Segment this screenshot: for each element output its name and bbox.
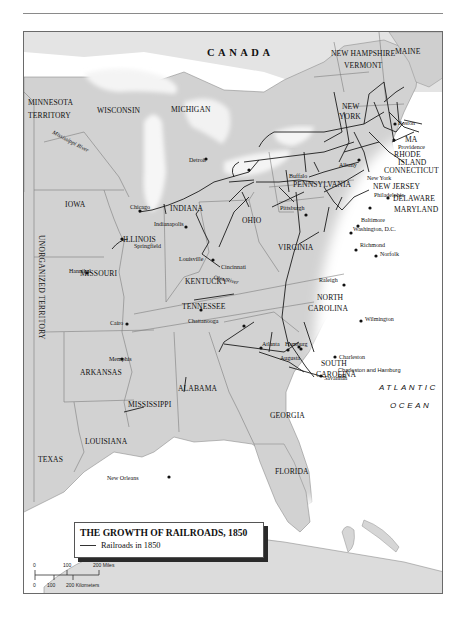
label-louisiana: LOUISIANA	[85, 438, 127, 446]
label-raleigh: Raleigh	[319, 277, 338, 283]
scale-miles-200: 200 Miles	[93, 562, 114, 568]
label-vermont: VERMONT	[344, 62, 382, 70]
label-minnesota: MINNESOTA	[28, 99, 73, 107]
label-north-carolina-2: CAROLINA	[308, 305, 348, 313]
label-alabama: ALABAMA	[178, 385, 217, 393]
label-memphis: Memphis	[109, 356, 132, 362]
legend-item-railroads: Railroads in 1850	[80, 541, 258, 550]
label-territory: TERRITORY	[28, 112, 71, 120]
scale-miles-0: 0	[33, 562, 36, 568]
label-mississippi: MISSISSIPPI	[128, 401, 171, 409]
label-texas: TEXAS	[38, 456, 63, 464]
label-cairo: Cairo	[110, 320, 123, 326]
label-georgia: GEORGIA	[270, 412, 305, 420]
label-baltimore: Baltimore	[361, 217, 385, 223]
label-unorganized-territory: UNORGANIZED TERRITORY	[38, 235, 45, 340]
label-ohio: OHIO	[242, 217, 261, 225]
label-providence: Providence	[398, 144, 425, 150]
label-new-york: New York	[367, 175, 391, 181]
label-detroit: Detroit	[189, 157, 206, 163]
label-maryland: MARYLAND	[394, 206, 438, 214]
label-hamburg: Hamburg	[285, 341, 308, 347]
label-chattanooga: Chattanooga	[188, 318, 218, 324]
label-philadelphia: Philadelphia	[374, 192, 404, 198]
railroad-map: CANADA ATLANTIC OCEAN MINNESOTA TERRITOR…	[23, 31, 443, 594]
label-pennsylvania: PENNSYLVANIA	[293, 181, 351, 189]
label-boston: Boston	[398, 120, 415, 126]
label-albany: Albany	[339, 162, 357, 168]
label-louisville: Louisville	[179, 256, 203, 262]
label-atlantic: ATLANTIC	[379, 384, 438, 392]
label-maine: MAINE	[395, 48, 420, 56]
scale-miles-100: 100	[63, 562, 71, 568]
label-new-orleans: New Orleans	[107, 475, 139, 481]
label-springfield: Springfield	[134, 243, 161, 249]
label-chicago: Chicago	[130, 204, 150, 210]
label-norfolk: Norfolk	[380, 251, 399, 257]
label-indianapolis: Indianapolis	[154, 221, 184, 227]
label-iowa: IOWA	[65, 201, 85, 209]
label-wilmington: Wilmington	[365, 316, 394, 322]
label-michigan: MICHIGAN	[171, 106, 211, 114]
label-new-york-2: YORK	[339, 113, 361, 121]
label-cincinnati: Cincinnati	[221, 264, 246, 270]
label-arkansas: ARKANSAS	[80, 369, 122, 377]
label-massachusetts: MA	[405, 136, 417, 144]
label-atlanta: Atlanta	[262, 341, 280, 347]
label-north-carolina-1: NORTH	[317, 294, 343, 302]
map-base-shapes	[24, 32, 443, 594]
label-canada: CANADA	[207, 48, 274, 59]
label-buffalo: Buffalo	[289, 173, 307, 179]
scale-km-0: 0	[33, 582, 36, 588]
label-connecticut: CONNECTICUT	[384, 167, 439, 175]
label-washington: Washington, D.C.	[353, 226, 396, 232]
label-hannibal: Hannibal	[69, 268, 91, 274]
legend-label: Railroads in 1850	[101, 541, 161, 550]
label-charleston: Charleston	[339, 354, 365, 360]
label-ocean: OCEAN	[390, 402, 431, 410]
scale-bar: 0 100 200 Miles 0 100 200 Kilometers	[33, 562, 123, 590]
label-indiana: INDIANA	[170, 205, 203, 213]
header-rule	[23, 13, 443, 14]
label-new-york-1: NEW	[342, 103, 360, 111]
label-augusta: Augusta	[280, 355, 300, 361]
label-tennessee: TENNESSEE	[182, 303, 226, 311]
scale-km-100: 100	[47, 582, 55, 588]
label-charleston-hamburg-rr: Charleston and Hamburg RR	[338, 367, 408, 379]
map-legend: THE GROWTH OF RAILROADS, 1850 Railroads …	[74, 522, 264, 558]
label-virginia: VIRGINIA	[278, 244, 313, 252]
railroad-line-symbol	[80, 545, 96, 546]
map-title: THE GROWTH OF RAILROADS, 1850	[80, 527, 258, 538]
label-pittsburgh: Pittsburgh	[280, 205, 305, 211]
scale-bar-lines	[33, 569, 103, 581]
label-new-jersey: NEW JERSEY	[373, 183, 420, 191]
label-wisconsin: WISCONSIN	[97, 107, 140, 115]
scale-km-200: 200 Kilometers	[66, 582, 99, 588]
label-new-hampshire: NEW HAMPSHIRE	[331, 50, 395, 58]
label-richmond: Richmond	[360, 242, 385, 248]
label-florida: FLORIDA	[275, 468, 309, 476]
